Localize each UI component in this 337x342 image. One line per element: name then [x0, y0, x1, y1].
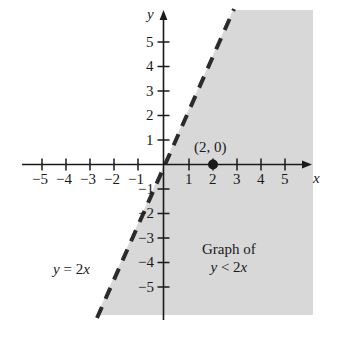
x-tick-label-4: 4: [257, 172, 265, 187]
x-tick-label-1: 1: [185, 172, 193, 187]
y-tick-label--1: −1: [138, 182, 154, 197]
line-equation-y: y: [53, 261, 60, 277]
y-tick-label--3: −3: [138, 231, 154, 246]
region-annotation: Graph of y < 2x: [202, 242, 256, 275]
line-equation-operator: = 2: [60, 261, 83, 277]
x-axis-label: x: [313, 171, 320, 186]
x-tick-label--5: −5: [32, 172, 48, 187]
y-tick-label-5: 5: [146, 35, 154, 50]
y-tick-label--4: −4: [138, 255, 154, 270]
region-annotation-line2: y < 2x: [202, 260, 256, 275]
region-inequality-operator: < 2: [217, 259, 240, 275]
data-point-marker: [208, 160, 218, 170]
y-tick-label--5: −5: [138, 280, 154, 295]
line-equation-x: x: [83, 261, 90, 277]
y-tick-label-3: 3: [146, 84, 154, 99]
y-axis-label: y: [147, 7, 154, 22]
x-tick-label-5: 5: [281, 172, 289, 187]
x-tick-label-3: 3: [233, 172, 241, 187]
x-tick-label--3: −3: [80, 172, 96, 187]
x-tick-label-2: 2: [209, 172, 217, 187]
y-tick-label-2: 2: [146, 108, 154, 123]
region-annotation-line1: Graph of: [202, 241, 256, 257]
point-label-2-0: (2, 0): [194, 140, 227, 155]
x-tick-label--2: −2: [104, 172, 120, 187]
x-tick-label--4: −4: [56, 172, 72, 187]
region-inequality-x: x: [241, 259, 248, 275]
y-tick-label-4: 4: [146, 59, 154, 74]
y-tick-label-1: 1: [146, 133, 154, 148]
line-equation-label: y = 2x: [53, 262, 90, 277]
y-tick-label--2: −2: [138, 206, 154, 221]
inequality-graph-figure: x y −5 −4 −3 −2 −1 1 2 3 4 5 5 4 3 2 1 −…: [0, 0, 337, 342]
